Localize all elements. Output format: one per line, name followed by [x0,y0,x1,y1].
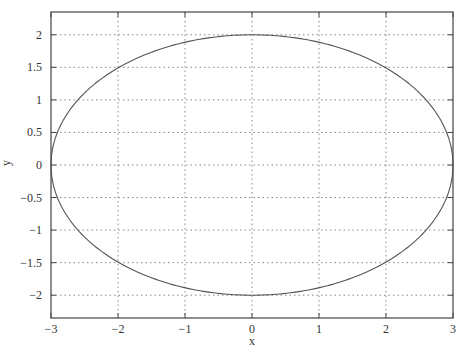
x-tick-label: −1 [179,322,192,336]
grid-lines [51,12,453,318]
x-axis-label: x [249,334,255,348]
y-tick-label: 0.5 [27,125,42,139]
y-tick-label: −1.5 [20,256,42,270]
y-tick-label: 1.5 [27,60,42,74]
y-axis-label: y [0,160,13,166]
y-tick-label: 0 [36,158,42,172]
y-tick-labels: −2−1.5−1−0.500.511.52 [20,28,42,302]
y-tick-label: 1 [36,93,42,107]
y-tick-label: −1 [29,223,42,237]
x-tick-label: 3 [450,322,456,336]
ellipse-chart: −3−2−10123 −2−1.5−1−0.500.511.52 x y [0,0,463,350]
y-tick-label: −0.5 [20,191,42,205]
x-tick-label: 1 [316,322,322,336]
x-tick-label: 2 [383,322,389,336]
x-tick-label: −3 [45,322,58,336]
y-tick-label: −2 [29,288,42,302]
x-tick-label: −2 [112,322,125,336]
y-tick-label: 2 [36,28,42,42]
